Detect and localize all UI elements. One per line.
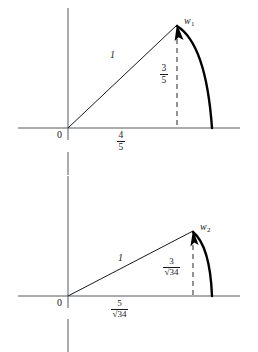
circular-arc-top (177, 26, 212, 128)
origin-label-bottom: 0 (57, 298, 62, 308)
vector-label-w1: w1 (184, 16, 194, 28)
figure-root: w1 1 0 3 5 4 5 (0, 0, 258, 352)
hypotenuse-label-top: 1 (110, 50, 115, 60)
diagram-top-svg (0, 0, 258, 176)
diagram-bottom-svg (0, 176, 258, 352)
origin-label-top: 0 (57, 130, 62, 140)
diagram-panel-top: w1 1 0 3 5 4 5 (0, 0, 258, 176)
horizontal-component-fraction-top: 4 5 (117, 131, 125, 153)
hypotenuse-label-bottom: 1 (118, 253, 123, 263)
horizontal-component-fraction-bottom: 5 √34 (111, 299, 128, 320)
vertical-component-fraction-bottom: 3 √34 (163, 257, 180, 278)
diagram-panel-bottom: w2 1 0 3 √34 5 √34 (0, 176, 258, 352)
vector-label-w2: w2 (200, 222, 210, 234)
vertical-component-fraction-top: 3 5 (160, 64, 168, 86)
